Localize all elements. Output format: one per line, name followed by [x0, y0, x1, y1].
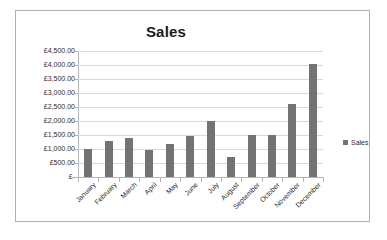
category-axis-tick — [262, 178, 263, 182]
value-axis-label: £- — [17, 173, 75, 181]
bar-july[interactable] — [207, 121, 215, 177]
gridline — [78, 163, 323, 164]
category-label-june: June — [184, 181, 200, 197]
bar-december[interactable] — [309, 64, 317, 177]
category-label-may: May — [165, 181, 179, 195]
value-axis-tick — [75, 163, 78, 164]
value-axis-tick — [75, 107, 78, 108]
legend-label-sales: Sales — [351, 139, 369, 146]
category-label-july: July — [206, 181, 220, 195]
bar-november[interactable] — [288, 104, 296, 177]
chart-frame[interactable]: Sales £-£500.00£1,000.00£1,500.00£2,000.… — [15, 10, 370, 222]
value-axis-label: £3,500.00 — [17, 75, 75, 83]
bar-may[interactable] — [166, 144, 174, 177]
category-axis-tick — [180, 178, 181, 182]
chart-title: Sales — [16, 23, 316, 40]
gridline — [78, 93, 323, 94]
plot-area[interactable] — [78, 51, 323, 177]
category-axis-tick — [221, 178, 222, 182]
gridline — [78, 149, 323, 150]
value-axis-tick — [75, 135, 78, 136]
bar-april[interactable] — [145, 150, 153, 177]
category-axis-tick — [78, 178, 79, 182]
category-axis-tick — [303, 178, 304, 182]
category-axis-tick — [282, 178, 283, 182]
gridline — [78, 79, 323, 80]
bar-october[interactable] — [268, 135, 276, 177]
bar-june[interactable] — [186, 136, 194, 177]
category-axis-tick — [160, 178, 161, 182]
category-label-march: March — [119, 181, 138, 200]
value-axis-label: £1,500.00 — [17, 131, 75, 139]
bar-august[interactable] — [227, 157, 235, 177]
category-axis-tick — [323, 178, 324, 182]
legend-marker-sales — [343, 140, 348, 145]
bar-september[interactable] — [248, 135, 256, 177]
value-axis-label: £2,500.00 — [17, 103, 75, 111]
value-axis-tick — [75, 65, 78, 66]
value-axis-label: £500.00 — [17, 159, 75, 167]
category-axis-tick — [201, 178, 202, 182]
gridline — [78, 121, 323, 122]
category-label-april: April — [144, 181, 159, 196]
gridline — [78, 65, 323, 66]
gridline — [78, 107, 323, 108]
bar-january[interactable] — [84, 149, 92, 177]
value-axis-label: £3,000.00 — [17, 89, 75, 97]
value-axis-tick — [75, 93, 78, 94]
category-axis-tick — [241, 178, 242, 182]
value-axis-label: £4,000.00 — [17, 61, 75, 69]
gridline — [78, 51, 323, 52]
value-axis-tick — [75, 79, 78, 80]
value-axis-label: £1,000.00 — [17, 145, 75, 153]
gridline — [78, 135, 323, 136]
bar-march[interactable] — [125, 138, 133, 177]
value-axis-label: £4,500.00 — [17, 47, 75, 55]
value-axis-tick — [75, 51, 78, 52]
value-axis-labels: £-£500.00£1,000.00£1,500.00£2,000.00£2,5… — [16, 51, 75, 178]
value-axis-label: £2,000.00 — [17, 117, 75, 125]
category-axis-tick — [98, 178, 99, 182]
bar-february[interactable] — [105, 141, 113, 177]
chart-legend[interactable]: Sales — [343, 139, 369, 146]
category-axis-tick — [119, 178, 120, 182]
category-axis-tick — [139, 178, 140, 182]
value-axis-tick — [75, 149, 78, 150]
category-axis-labels: JanuaryFebruaryMarchAprilMayJuneJulyAugu… — [78, 179, 324, 229]
value-axis-tick — [75, 121, 78, 122]
